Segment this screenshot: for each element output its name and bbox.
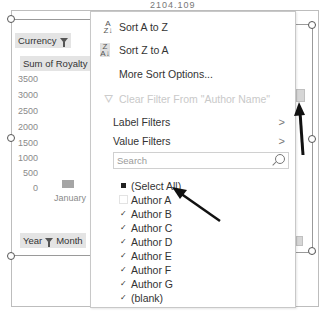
y-axis-tick: 3500 xyxy=(8,74,38,84)
checkmark-icon: ✓ xyxy=(119,223,128,232)
resize-handle-bottom-right[interactable] xyxy=(308,247,316,255)
checkbox-author-d[interactable]: ✓ Author D xyxy=(119,235,172,248)
resize-handle-bottom-left[interactable] xyxy=(7,252,15,260)
label-filters-item[interactable]: Label Filters > xyxy=(91,113,295,131)
clear-filter-label: Clear Filter From "Author Name" xyxy=(119,93,270,105)
checkmark-icon: ✓ xyxy=(119,251,128,260)
sort-ascending-icon: AZ↓ xyxy=(97,20,119,34)
y-axis-tick: 2000 xyxy=(8,122,38,132)
y-axis-tick: 1000 xyxy=(8,153,38,163)
filter-funnel-icon xyxy=(60,38,68,43)
value-filters-label: Value Filters xyxy=(113,135,171,147)
checkbox-label: Author A xyxy=(131,194,171,206)
checkbox-author-e[interactable]: ✓ Author E xyxy=(119,249,172,262)
sort-z-to-a-item[interactable]: ZA↓ Sort Z to A xyxy=(91,41,295,59)
clear-filter-item: ⛛ Clear Filter From "Author Name" xyxy=(91,90,295,108)
chart-value-label: 2104.109 xyxy=(150,0,196,10)
checkmark-icon: ✓ xyxy=(119,237,128,246)
checkbox-label: Author F xyxy=(131,264,171,276)
label-filters-label: Label Filters xyxy=(113,116,170,128)
sort-descending-icon: ZA↓ xyxy=(100,43,110,57)
chart-bar-january[interactable] xyxy=(62,180,74,188)
resize-handle-right[interactable] xyxy=(308,135,316,143)
checkmark-icon: ✓ xyxy=(119,293,128,302)
checkbox-label: (Select All) xyxy=(131,180,181,192)
checkbox-author-g[interactable]: ✓ Author G xyxy=(119,277,173,290)
y-axis-tick: 500 xyxy=(8,168,38,178)
checkmark-icon: ✓ xyxy=(119,279,128,288)
resize-handle-top-right[interactable] xyxy=(308,21,316,29)
currency-filter-button[interactable]: Currency xyxy=(15,33,71,48)
checkbox-author-c[interactable]: ✓ Author C xyxy=(119,221,172,234)
more-sort-options-item[interactable]: More Sort Options... xyxy=(91,65,295,83)
checkbox-label: Author E xyxy=(131,250,172,262)
checkbox-author-f[interactable]: ✓ Author F xyxy=(119,263,171,276)
y-axis-tick: 1500 xyxy=(8,138,38,148)
checkbox-blank[interactable]: ✓ (blank) xyxy=(119,291,163,304)
field-button-partial[interactable] xyxy=(296,236,303,246)
checkmark-icon: ✓ xyxy=(119,265,128,274)
checkmark-icon: ✓ xyxy=(119,209,128,218)
year-month-field-buttons: Year Month xyxy=(20,233,86,248)
y-axis-tick: 3000 xyxy=(8,90,38,100)
search-input[interactable]: Search xyxy=(113,152,289,169)
sort-a-to-z-label: Sort A to Z xyxy=(119,21,168,33)
chart-selection-line xyxy=(11,255,91,256)
sort-z-to-a-label: Sort Z to A xyxy=(119,44,169,56)
x-axis-label: January xyxy=(54,193,86,203)
currency-label: Currency xyxy=(18,35,57,46)
resize-handle-top-left[interactable] xyxy=(7,15,15,23)
checkbox-author-a[interactable]: Author A xyxy=(119,193,171,206)
chevron-right-icon: > xyxy=(279,116,285,128)
checkbox-indeterminate-icon xyxy=(119,181,128,190)
filter-funnel-icon[interactable] xyxy=(45,238,53,243)
clear-filter-icon: ⛛ xyxy=(97,96,119,103)
year-filter-button[interactable]: Year xyxy=(23,235,42,246)
checkbox-unchecked-icon xyxy=(119,195,128,204)
chart-selection-line xyxy=(11,19,91,20)
checkbox-author-b[interactable]: ✓ Author B xyxy=(119,207,172,220)
month-field-button[interactable]: Month xyxy=(56,235,82,246)
author-name-filter-dropdown-button[interactable] xyxy=(296,89,305,102)
checkbox-label: Author C xyxy=(131,222,172,234)
checkbox-select-all[interactable]: (Select All) xyxy=(119,179,181,192)
value-filters-item[interactable]: Value Filters > xyxy=(91,132,295,150)
sort-a-to-z-item[interactable]: AZ↓ Sort A to Z xyxy=(91,18,295,36)
checkbox-label: Author D xyxy=(131,236,172,248)
checkbox-label: Author G xyxy=(131,278,173,290)
checkbox-label: (blank) xyxy=(131,292,163,304)
checkbox-label: Author B xyxy=(131,208,172,220)
y-axis-tick: 0 xyxy=(8,183,38,193)
chevron-right-icon: > xyxy=(279,135,285,147)
y-axis-tick: 2500 xyxy=(8,106,38,116)
search-placeholder: Search xyxy=(117,155,147,166)
search-icon xyxy=(275,154,285,164)
sum-of-royalty-field[interactable]: Sum of Royalty xyxy=(20,56,90,71)
filter-dropdown-menu: AZ↓ Sort A to Z ZA↓ Sort Z to A More Sor… xyxy=(90,11,296,308)
